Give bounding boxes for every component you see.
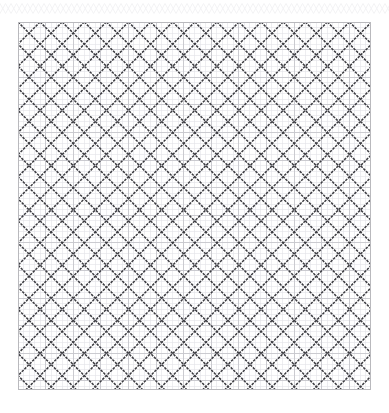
- panel-border: [18, 22, 371, 390]
- diagonal-crosshatch-lattice: [18, 22, 371, 390]
- decorative-zigzag-band: [0, 0, 389, 15]
- major-gridlines: [18, 22, 371, 390]
- figure-canvas: [0, 0, 389, 413]
- graph-paper-panel: [18, 22, 371, 390]
- minor-gridlines: [18, 22, 371, 390]
